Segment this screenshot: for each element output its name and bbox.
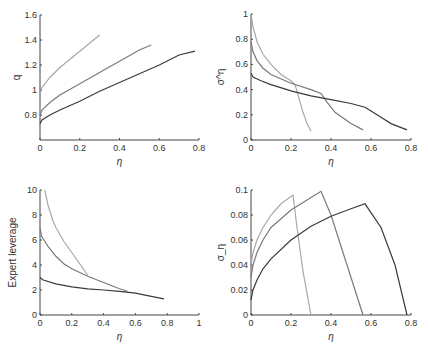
y-axis-label: q bbox=[11, 75, 22, 81]
x-axis-label: η bbox=[117, 331, 123, 342]
y-tick-label: 2 bbox=[32, 285, 37, 295]
y-tick-label: 0.4 bbox=[235, 85, 248, 95]
x-tick-label: 0 bbox=[37, 143, 42, 153]
y-tick-label: 0.06 bbox=[230, 235, 248, 245]
x-tick-label: 0.6 bbox=[365, 318, 378, 328]
x-tick-label: 0 bbox=[248, 318, 253, 328]
y-tick-label: 8 bbox=[32, 210, 37, 220]
x-tick-label: 0.2 bbox=[285, 318, 298, 328]
x-axis-label: η bbox=[328, 156, 334, 167]
series-medium bbox=[40, 228, 128, 292]
y-tick-label: 1.6 bbox=[24, 10, 37, 20]
series-medium bbox=[251, 42, 363, 130]
figure: 00.20.40.60.80.811.21.41.6ηq 00.20.40.60… bbox=[0, 0, 429, 347]
y-tick-label: 0.8 bbox=[24, 110, 37, 120]
y-tick-label: 4 bbox=[32, 260, 37, 270]
series-dark bbox=[251, 204, 407, 315]
x-tick-label: 0.6 bbox=[365, 143, 378, 153]
series-light bbox=[40, 35, 100, 94]
x-tick-label: 0.8 bbox=[405, 143, 418, 153]
panel-expert-leverage: 00.20.40.60.810246810ηExpert leverage bbox=[7, 185, 202, 342]
y-tick-label: 6 bbox=[32, 235, 37, 245]
series-light bbox=[251, 14, 311, 131]
y-tick-label: 0.2 bbox=[235, 110, 248, 120]
x-tick-label: 0.2 bbox=[66, 318, 79, 328]
y-tick-label: 0.08 bbox=[230, 210, 248, 220]
y-tick-label: 0.02 bbox=[230, 285, 248, 295]
y-tick-label: 1.4 bbox=[24, 35, 37, 45]
y-tick-label: 10 bbox=[27, 185, 37, 195]
y-tick-label: 0 bbox=[243, 135, 248, 145]
y-tick-label: 1.2 bbox=[24, 60, 37, 70]
series-dark bbox=[251, 73, 407, 130]
x-tick-label: 0 bbox=[248, 143, 253, 153]
x-tick-label: 0 bbox=[37, 318, 42, 328]
x-tick-label: 0.6 bbox=[129, 318, 142, 328]
x-tick-label: 0.4 bbox=[113, 143, 126, 153]
y-tick-label: 0.1 bbox=[235, 185, 248, 195]
y-tick-label: 1 bbox=[32, 85, 37, 95]
series-dark bbox=[40, 278, 164, 299]
y-tick-label: 1 bbox=[243, 9, 248, 19]
x-tick-label: 0.4 bbox=[325, 143, 338, 153]
x-tick-label: 0.8 bbox=[405, 318, 418, 328]
x-tick-label: 0.4 bbox=[325, 318, 338, 328]
y-tick-label: 0.04 bbox=[230, 260, 248, 270]
series-medium bbox=[40, 45, 151, 115]
series-light bbox=[45, 190, 88, 275]
x-tick-label: 0.8 bbox=[193, 143, 206, 153]
y-tick-label: 0 bbox=[32, 310, 37, 320]
x-tick-label: 0.6 bbox=[153, 143, 166, 153]
panel-sigma-eta: 00.20.40.60.800.20.40.60.81ησ^η bbox=[215, 9, 417, 167]
x-tick-label: 0.2 bbox=[285, 143, 298, 153]
y-tick-label: 0.8 bbox=[235, 34, 248, 44]
x-tick-label: 1 bbox=[196, 318, 201, 328]
x-axis-label: η bbox=[117, 156, 123, 167]
series-light bbox=[251, 195, 311, 315]
panel-sigma: 00.20.40.60.800.020.040.060.080.1ησ_η bbox=[215, 185, 417, 342]
x-axis-label: η bbox=[328, 331, 334, 342]
x-tick-label: 0.2 bbox=[73, 143, 86, 153]
x-tick-label: 0.4 bbox=[97, 318, 110, 328]
y-axis-label: σ_η bbox=[215, 244, 226, 261]
panel-q: 00.20.40.60.80.811.21.41.6ηq bbox=[11, 10, 205, 167]
x-tick-label: 0.8 bbox=[161, 318, 174, 328]
y-tick-label: 0.6 bbox=[235, 59, 248, 69]
y-axis-label: σ^η bbox=[215, 69, 226, 85]
y-axis-label: Expert leverage bbox=[7, 217, 18, 287]
y-tick-label: 0 bbox=[243, 310, 248, 320]
